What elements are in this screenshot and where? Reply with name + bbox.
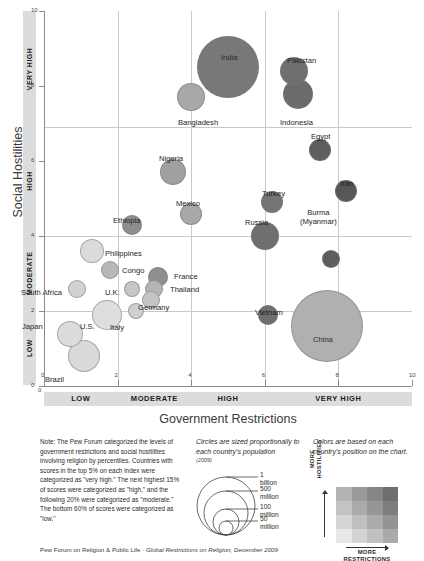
bubble-label-turkey: Turkey [262, 189, 285, 198]
y-zone-very-high: VERY HIGH [23, 11, 36, 127]
size-label-500-million: 500million [260, 485, 279, 500]
color-legend-caption: Colors are based on each country's posit… [313, 437, 421, 457]
bubble-label-india: India [221, 53, 237, 62]
bubble-egypt[interactable] [309, 139, 331, 161]
bubble-south-africa[interactable] [68, 280, 86, 298]
bubble-label-nigeria: Nigeria [159, 154, 183, 163]
x-zone-low: LOW [44, 392, 118, 406]
gridline-horizontal [44, 127, 412, 128]
size-legend-circles: 1billion 500million 100million 50million [196, 466, 306, 538]
bubble-philippines[interactable] [80, 239, 104, 263]
size-label-1-billion: 1billion [260, 471, 277, 486]
bubble-chart: Social Hostilities Government Restrictio… [0, 0, 424, 420]
gridline-horizontal [44, 236, 412, 237]
x-zone-moderate: MODERATE [118, 392, 192, 406]
bubble-label-south-africa: South Africa [21, 288, 62, 297]
bubble-label-mexico: Mexico [176, 199, 200, 208]
color-swatch [352, 501, 368, 515]
bubble-label-philippines: Philippines [105, 249, 142, 258]
color-swatch [352, 529, 368, 543]
bubble-china[interactable] [291, 290, 363, 362]
footer-source: Pew Forum on Religion & Public Life [40, 546, 140, 553]
x-zone-high: HIGH [191, 392, 265, 406]
source-footer: Pew Forum on Religion & Public Life · Gl… [40, 546, 278, 553]
x-tick-label: 10 [409, 372, 416, 378]
color-swatch [336, 515, 352, 529]
color-legend-body: MORE HOSTILITIES MORERESTRICTIONS [313, 457, 421, 543]
x-zone-very-high: VERY HIGH [265, 392, 412, 406]
x-axis-title: Government Restrictions [44, 412, 412, 426]
y-axis-line [44, 11, 45, 386]
bubble-japan[interactable] [57, 321, 83, 347]
bubble-u-k[interactable] [124, 281, 140, 297]
size-legend-year: (2009) [196, 457, 306, 463]
x-tick [412, 380, 413, 386]
color-swatch [367, 515, 383, 529]
bubble-label-germany: Germany [138, 303, 169, 312]
chart-note: Note: The Pew Forum categorized the leve… [40, 437, 180, 523]
bubble-congo[interactable] [101, 261, 119, 279]
restrictions-arrow-icon [346, 547, 386, 548]
size-label-50-million: 50million [260, 515, 279, 530]
bubble-label-bangladesh: Bangladesh [178, 118, 218, 127]
bubble-label-indonesia: Indonesia [280, 118, 313, 127]
color-swatch [336, 529, 352, 543]
color-matrix [336, 487, 398, 543]
bubble-label-ethiopia: Ethiopia [113, 216, 140, 225]
bubble-label-china: China [313, 335, 333, 344]
bubble-burma-myanmar[interactable] [322, 250, 340, 268]
x-tick-label: 2 [115, 372, 118, 378]
color-swatch [367, 487, 383, 501]
color-swatch [336, 501, 352, 515]
bubble-label-egypt: Egypt [311, 132, 330, 141]
color-swatch [367, 501, 383, 515]
bubble-label-iran: Iran [340, 179, 353, 188]
x-tick-label: 6 [262, 372, 265, 378]
bubble-label-pakistan: Pakistan [287, 56, 316, 65]
bubble-label-congo: Congo [122, 266, 144, 275]
bubble-label-vietnam: Vietnam [255, 308, 283, 317]
bubble-label-japan: Japan [22, 322, 43, 331]
y-zone-high: HIGH [23, 127, 36, 236]
bubble-label-france: France [174, 272, 198, 281]
color-swatch [352, 515, 368, 529]
y-zone-moderate: MODERATE [23, 236, 36, 311]
origin-label: 0 [38, 387, 41, 393]
x-tick-label: 8 [335, 372, 338, 378]
bubble-label-brazil: Brazil [45, 375, 64, 384]
color-legend: Colors are based on each country's posit… [313, 437, 421, 543]
color-swatch [367, 529, 383, 543]
color-legend-x-label: MORERESTRICTIONS [336, 549, 398, 561]
size-legend-caption: Circles are sized proportionally to each… [196, 437, 306, 457]
hostilities-arrow-icon [324, 493, 325, 537]
bubble-nigeria[interactable] [160, 159, 186, 185]
color-swatch [383, 487, 399, 501]
color-swatch [352, 487, 368, 501]
color-legend-y-label: MORE HOSTILITIES [309, 431, 322, 487]
size-circles-svg [196, 466, 306, 538]
bubble-india[interactable] [197, 36, 259, 98]
bubble-label-russia: Russia [245, 218, 268, 227]
bubble-label-thailand: Thailand [170, 285, 199, 294]
color-swatch [383, 515, 399, 529]
bubble-label-u-k: U.K. [105, 288, 120, 297]
bubble-label-italy: Italy [110, 323, 124, 332]
color-swatch [383, 529, 399, 543]
color-swatch [336, 487, 352, 501]
color-swatch [383, 501, 399, 515]
bubble-bangladesh[interactable] [177, 83, 205, 111]
bubble-label-burma-myanmar: Burma(Myanmar) [300, 208, 337, 226]
x-tick-label: 4 [188, 372, 191, 378]
size-legend: Circles are sized proportionally to each… [196, 437, 306, 538]
footer-report: Global Restrictions on Religion, Decembe… [146, 546, 278, 553]
bubble-label-u-s: U.S. [80, 322, 95, 331]
x-axis-line [44, 386, 412, 387]
